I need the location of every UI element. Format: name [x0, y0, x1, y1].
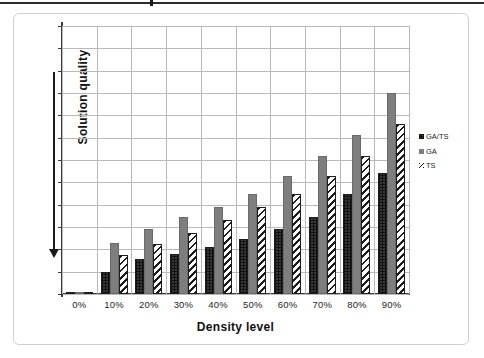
x-tick-label: 60% [270, 299, 305, 310]
bar-group [201, 26, 236, 294]
bar-group [270, 26, 305, 294]
bar-ga[interactable] [318, 156, 327, 294]
bar-group [340, 26, 375, 294]
bar-group [166, 26, 201, 294]
x-tick-label: 10% [97, 299, 132, 310]
x-tick-label: 40% [201, 299, 236, 310]
bar-ga-ts[interactable] [135, 259, 144, 294]
bar-ga[interactable] [248, 194, 257, 295]
x-axis-title: Density level [62, 320, 409, 334]
bar-ga[interactable] [352, 135, 361, 294]
bar-groups [62, 26, 409, 294]
bar-ts[interactable] [84, 292, 93, 294]
x-tick-label: 20% [131, 299, 166, 310]
legend-item-ts[interactable]: TS [419, 162, 449, 170]
x-tick-label: 0% [62, 299, 97, 310]
legend-label: GA/TS [426, 133, 449, 141]
bar-ga-ts[interactable] [239, 239, 248, 294]
bar-ts[interactable] [223, 220, 232, 294]
x-tick-label: 80% [340, 299, 375, 310]
legend-label: TS [426, 162, 436, 170]
x-tick-label: 90% [374, 299, 409, 310]
bar-group [97, 26, 132, 294]
legend-label: GA [426, 148, 437, 156]
bar-ga-ts[interactable] [309, 217, 318, 294]
bar-group [62, 26, 97, 294]
bar-ts[interactable] [188, 233, 197, 294]
bar-ts[interactable] [153, 244, 162, 294]
bar-ga[interactable] [110, 243, 119, 294]
bar-ga[interactable] [387, 93, 396, 294]
bar-ga-ts[interactable] [378, 173, 387, 294]
bar-ga-ts[interactable] [66, 292, 75, 294]
page-top-rule-mark [150, 0, 153, 6]
solution-quality-arrow-icon [53, 72, 55, 250]
plot-area [62, 26, 409, 294]
bar-ga[interactable] [283, 176, 292, 294]
square-crosshatch-swatch [419, 134, 424, 139]
x-tick-label: 70% [305, 299, 340, 310]
bar-group [305, 26, 340, 294]
bar-ga[interactable] [214, 207, 223, 294]
bar-ts[interactable] [327, 176, 336, 294]
bar-group [131, 26, 166, 294]
x-tick-label: 50% [236, 299, 271, 310]
bar-ts[interactable] [361, 156, 370, 294]
bar-ts[interactable] [119, 255, 128, 294]
bar-ts[interactable] [292, 194, 301, 295]
bar-ts[interactable] [257, 207, 266, 294]
square-solid-swatch [419, 149, 424, 154]
bar-ga-ts[interactable] [343, 194, 352, 295]
bar-ga-ts[interactable] [205, 247, 214, 294]
bar-group [374, 26, 409, 294]
bar-ga-ts[interactable] [274, 229, 283, 294]
legend: GA/TSGATS [419, 133, 449, 170]
bar-ga[interactable] [75, 292, 84, 294]
square-diagonal-swatch [419, 163, 424, 168]
page-top-rule [0, 2, 484, 4]
bar-ga[interactable] [144, 229, 153, 294]
x-tick-label: 30% [166, 299, 201, 310]
bar-ga[interactable] [179, 217, 188, 294]
legend-item-ga[interactable]: GA [419, 148, 449, 156]
bar-ts[interactable] [396, 124, 405, 294]
bar-ga-ts[interactable] [101, 272, 110, 294]
bar-group [236, 26, 271, 294]
legend-item-ga-ts[interactable]: GA/TS [419, 133, 449, 141]
bar-ga-ts[interactable] [170, 254, 179, 294]
x-axis-ticklabels: 0%10%20%30%40%50%60%70%80%90% [62, 299, 409, 310]
